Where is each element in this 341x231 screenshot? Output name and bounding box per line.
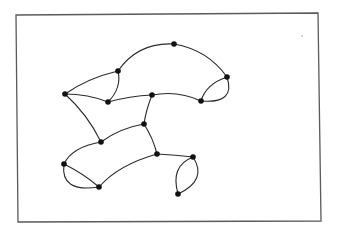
edge-group [64,44,229,194]
graph-node-n8 [141,121,147,127]
graph-node-n4 [171,41,177,47]
edge-n11-n12 [64,164,99,188]
diagram-canvas [0,0,341,231]
edge-n2-n4 [118,44,174,71]
edge-n4-n5 [174,44,227,77]
graph-node-n3 [105,99,111,105]
graph-node-n1 [62,91,68,97]
graph-node-n10 [154,151,160,157]
graph-node-n2 [115,68,121,74]
edge-n7-n6 [152,93,201,101]
edge-n2-n3 [108,71,119,102]
edge-n5-n6 [201,77,229,101]
edge-n10-n13 [157,154,193,157]
edge-n1-n9 [65,94,101,142]
edge-n8-n10 [144,124,157,154]
scan-speck [301,35,303,37]
edge-n7-n8 [144,95,152,124]
graph-node-n6 [198,98,204,104]
graph-node-n12 [96,184,102,190]
graph-node-n11 [61,161,67,167]
edge-n3-n7 [108,95,152,102]
edge-n13-n14 [178,157,198,194]
graph-node-n7 [149,92,155,98]
edge-n1-n2 [65,71,118,94]
graph-node-n14 [175,191,181,197]
edge-n12-n10 [99,154,157,187]
graph-diagram [0,0,341,231]
edge-n9-n11 [64,142,101,164]
graph-node-n9 [98,139,104,145]
edge-n13-n14 [176,157,193,194]
node-group [61,41,230,197]
edge-n8-n9 [101,124,144,142]
graph-node-n13 [190,154,196,160]
graph-node-n5 [224,74,230,80]
